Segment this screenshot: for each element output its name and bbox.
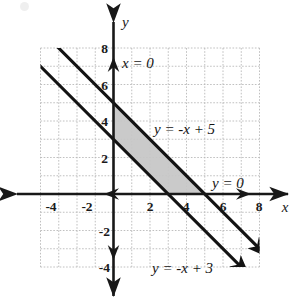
x-tick-label: 4 xyxy=(183,199,190,214)
equation-label-lower-line: y = -x + 3 xyxy=(150,260,213,276)
line-y-equals-neg-x-plus-3 xyxy=(26,52,249,275)
coordinate-plane-figure: -4 -2 2 4 6 8 8 6 4 2 -2 -4 y x x = 0 y … xyxy=(0,0,305,306)
x-tick-label: -2 xyxy=(81,199,92,214)
x-tick-label: 2 xyxy=(147,199,154,214)
line-y-equals-neg-x-plus-5 xyxy=(55,45,267,257)
y-tick-label: 8 xyxy=(101,41,108,56)
y-tick-label: -2 xyxy=(99,224,110,239)
y-axis-name: y xyxy=(120,14,129,30)
y-tick-label: 6 xyxy=(101,78,108,93)
x-tick-label: 8 xyxy=(256,199,263,214)
y-tick-label: 2 xyxy=(101,151,108,166)
y-tick-label: 4 xyxy=(101,114,108,129)
x-axis-name: x xyxy=(281,199,289,215)
equation-label-x-equals-0: x = 0 xyxy=(121,55,154,71)
graph-svg: -4 -2 2 4 6 8 8 6 4 2 -2 -4 y x x = 0 y … xyxy=(0,0,305,306)
x-tick-labels: -4 -2 2 4 6 8 xyxy=(45,199,262,214)
y-tick-label: -4 xyxy=(99,260,110,275)
y-tick-labels: 8 6 4 2 -2 -4 xyxy=(99,41,110,275)
equation-label-upper-line: y = -x + 5 xyxy=(152,121,216,137)
equation-label-y-equals-0: y = 0 xyxy=(210,175,244,191)
x-tick-label: -4 xyxy=(45,199,56,214)
x-tick-label: 6 xyxy=(220,199,227,214)
